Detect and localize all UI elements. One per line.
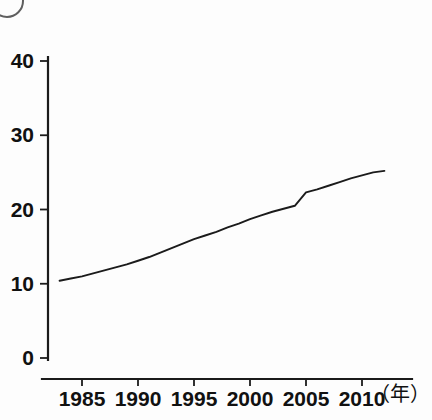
y-axis-tick-label: 30: [11, 123, 34, 146]
y-axis-tick-label: 40: [11, 49, 34, 72]
y-axis-tick-labels: 010203040: [11, 49, 34, 369]
x-axis-tick-label: 1990: [115, 387, 162, 410]
x-axis-tick-labels: 198519901995200020052010: [59, 387, 386, 410]
x-axis-unit-label: （年）: [370, 383, 430, 405]
chart-figure: 010203040 198519901995200020052010 （年）: [0, 0, 432, 420]
y-axis: 010203040: [11, 49, 48, 369]
x-axis-tick-label: 1995: [171, 387, 218, 410]
line-chart-canvas: 010203040 198519901995200020052010 （年）: [0, 0, 432, 420]
y-axis-tick-marks: [40, 61, 48, 358]
y-axis-tick-label: 0: [22, 346, 34, 369]
data-series-line: [60, 171, 385, 281]
y-axis-tick-label: 20: [11, 198, 34, 221]
plot-area: [60, 171, 385, 281]
x-axis-tick-label: 2000: [227, 387, 274, 410]
y-axis-tick-label: 10: [11, 272, 34, 295]
x-axis-tick-label: 2005: [283, 387, 330, 410]
x-axis: 198519901995200020052010: [42, 379, 412, 410]
x-axis-tick-label: 1985: [59, 387, 106, 410]
